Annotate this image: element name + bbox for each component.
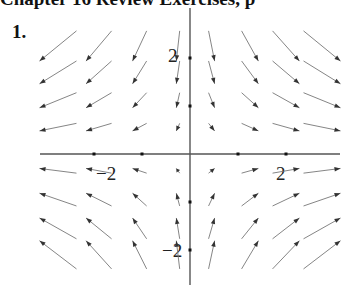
arrow-head-icon bbox=[252, 126, 258, 130]
arrow-head-icon bbox=[40, 79, 46, 84]
vector-field-plot: −2 2 2 −2 bbox=[0, 0, 350, 293]
y-tick bbox=[189, 57, 192, 60]
y-tick-label-neg2: −2 bbox=[162, 240, 182, 261]
arrow-shaft bbox=[304, 218, 341, 239]
arrow-head-icon bbox=[293, 127, 299, 131]
arrow-head-icon bbox=[334, 218, 340, 223]
arrow-head-icon bbox=[254, 55, 259, 61]
arrow-head-icon bbox=[334, 128, 340, 132]
arrow-head-icon bbox=[211, 218, 215, 224]
arrow-head-icon bbox=[176, 168, 180, 172]
x-tick bbox=[285, 153, 288, 156]
x-tick bbox=[141, 153, 144, 156]
arrow-head-icon bbox=[334, 103, 340, 107]
arrow-shaft bbox=[304, 31, 341, 61]
y-tick bbox=[189, 249, 192, 252]
arrow-head-icon bbox=[133, 78, 138, 84]
arrow-head-icon bbox=[40, 241, 46, 246]
arrow-head-icon bbox=[175, 218, 179, 224]
arrow-head-icon bbox=[210, 101, 214, 107]
arrow-shaft bbox=[304, 241, 341, 269]
arrow-head-icon bbox=[253, 241, 258, 247]
arrow-head-icon bbox=[86, 103, 92, 108]
arrow-head-icon bbox=[334, 241, 340, 246]
arrow-shaft bbox=[40, 218, 77, 239]
arrow-head-icon bbox=[86, 167, 92, 171]
arrow-head-icon bbox=[334, 79, 340, 84]
arrow-head-icon bbox=[133, 241, 138, 247]
arrow-head-icon bbox=[40, 103, 46, 107]
y-tick bbox=[189, 201, 192, 204]
arrow-head-icon bbox=[211, 77, 215, 83]
arrow-shaft bbox=[40, 241, 77, 269]
arrow-head-icon bbox=[133, 126, 139, 131]
arrow-head-icon bbox=[252, 168, 258, 172]
x-tick bbox=[93, 153, 96, 156]
arrow-head-icon bbox=[210, 168, 215, 173]
arrow-head-icon bbox=[293, 167, 299, 171]
arrow-head-icon bbox=[334, 193, 340, 197]
arrow-head-icon bbox=[176, 193, 180, 199]
arrow-head-icon bbox=[210, 193, 215, 199]
arrow-head-icon bbox=[133, 218, 138, 224]
arrow-head-icon bbox=[334, 167, 340, 171]
arrow-head-icon bbox=[133, 55, 138, 61]
arrow-shaft bbox=[273, 31, 300, 61]
arrow-shaft bbox=[40, 31, 77, 61]
arrow-head-icon bbox=[211, 55, 215, 61]
arrow-head-icon bbox=[293, 193, 299, 198]
y-tick bbox=[189, 105, 192, 108]
arrow-head-icon bbox=[175, 78, 179, 84]
arrow-head-icon bbox=[252, 193, 258, 198]
arrow-head-icon bbox=[86, 193, 92, 198]
arrow-shaft bbox=[40, 61, 77, 84]
arrow-head-icon bbox=[293, 103, 299, 108]
x-tick-label-2: 2 bbox=[276, 163, 286, 184]
arrow-head-icon bbox=[40, 218, 46, 223]
arrow-head-icon bbox=[86, 127, 92, 131]
arrow-head-icon bbox=[133, 168, 139, 172]
arrow-head-icon bbox=[293, 218, 299, 223]
x-tick-label-neg2: −2 bbox=[96, 163, 116, 184]
arrow-head-icon bbox=[40, 128, 46, 132]
arrow-head-icon bbox=[40, 193, 46, 197]
arrow-head-icon bbox=[253, 78, 258, 84]
x-tick bbox=[237, 153, 240, 156]
arrow-head-icon bbox=[40, 167, 46, 171]
arrow-shaft bbox=[304, 61, 341, 84]
